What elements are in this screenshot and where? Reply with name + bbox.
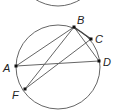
label-c: C (95, 33, 103, 45)
point-b (73, 26, 76, 29)
label-d: D (103, 56, 111, 68)
label-f: F (12, 89, 20, 101)
label-a: A (2, 62, 10, 74)
point-a (15, 65, 18, 68)
segment-bc (74, 27, 91, 39)
top-partial-circle (33, 0, 83, 6)
point-d (98, 60, 101, 63)
point-c (90, 38, 93, 41)
geometry-diagram: A B C D F (0, 0, 120, 111)
segment-ab (16, 27, 74, 66)
point-f (24, 88, 27, 91)
segments (16, 27, 99, 89)
segment-ad (16, 61, 99, 66)
label-b: B (77, 14, 84, 26)
